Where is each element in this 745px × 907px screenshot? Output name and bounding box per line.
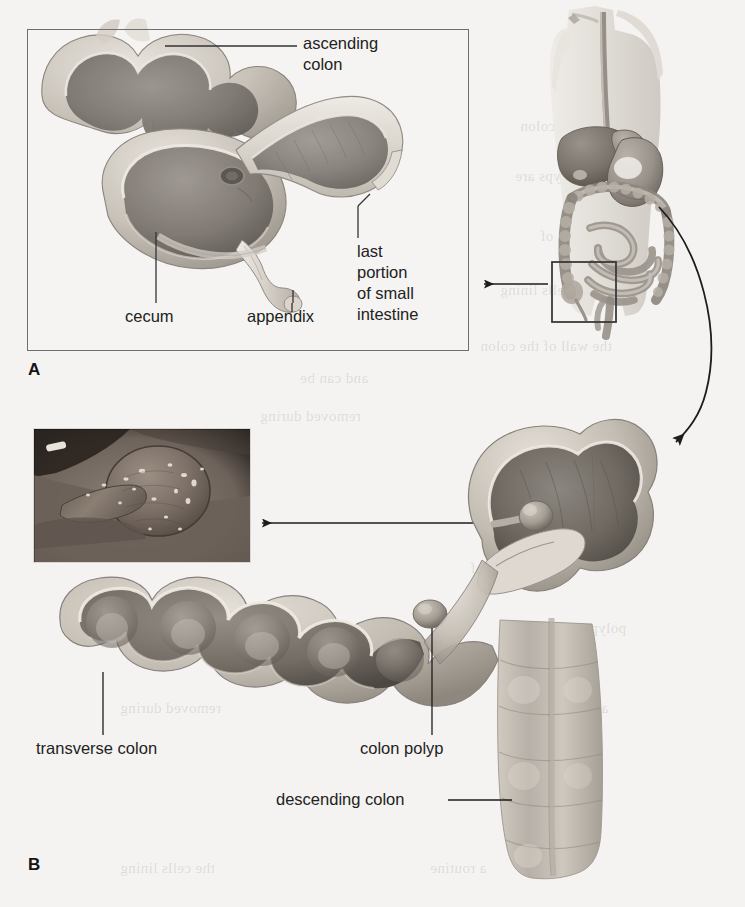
label-last-portion-small-intestine: last portion of small intestine [357, 241, 418, 325]
endoscopic-photograph [33, 428, 251, 563]
torso-illustration [550, 6, 675, 336]
panel-letter-a: A [28, 360, 40, 380]
label-colon-polyp: colon polyp [360, 738, 443, 759]
label-transverse-colon: transverse colon [36, 738, 157, 759]
descending-colon-illustration [498, 618, 603, 879]
panel-letter-b: B [28, 855, 40, 875]
endoscopic-photo-art [34, 429, 251, 563]
label-cecum: cecum [125, 306, 174, 327]
label-descending-colon: descending colon [276, 789, 404, 810]
label-appendix: appendix [247, 306, 314, 327]
label-ascending-colon: ascending colon [303, 33, 378, 75]
figure-page: Most colon polyps are grow out of the ce… [0, 0, 745, 907]
